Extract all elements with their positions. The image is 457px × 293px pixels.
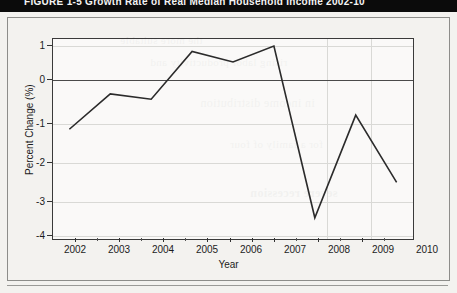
ylabel-0: 0 [21, 74, 45, 85]
income-growth-line [53, 39, 413, 239]
xlabel-2004: 2004 [143, 244, 183, 255]
ytick--2 [47, 162, 52, 163]
xlabel-2008: 2008 [319, 244, 359, 255]
ytick--4 [47, 235, 52, 236]
xtick-minor-6 [384, 238, 385, 241]
xtick-minor-5 [340, 238, 341, 241]
xtick-2006 [230, 238, 231, 242]
ylabel--3: -3 [21, 196, 45, 207]
xtick-2008 [274, 238, 275, 242]
ytick-1 [47, 45, 52, 46]
ytick--3 [47, 201, 52, 202]
figure-title: FIGURE 1-5 Growth Rate of Real Median Ho… [24, 0, 365, 7]
y-axis-title: Percent Change (%) [24, 84, 35, 175]
xlabel-2003: 2003 [99, 244, 139, 255]
xtick-minor-2 [141, 238, 142, 241]
ytick-0 [47, 79, 52, 80]
xlabel-2009: 2009 [363, 244, 403, 255]
scanned-page: the more suitable rising labor productiv… [0, 0, 457, 293]
xlabel-2006: 2006 [231, 244, 271, 255]
ytick--1 [47, 123, 52, 124]
xtick-minor-3 [185, 238, 186, 241]
xlabel-2010: 2010 [407, 244, 447, 255]
xtick-2004 [163, 238, 164, 242]
xtick-2010 [362, 238, 363, 242]
xtick-2009 [318, 238, 319, 242]
xlabel-2005: 2005 [187, 244, 227, 255]
xtick-minor-1 [97, 238, 98, 241]
page-bottom-rule [7, 285, 448, 286]
chart-plot-area [52, 38, 414, 240]
xtick-2005 [207, 238, 208, 242]
ylabel-1: 1 [21, 40, 45, 51]
xtick-2007 [252, 238, 253, 242]
xlabel-2007: 2007 [275, 244, 315, 255]
figure-title-banner: FIGURE 1-5 Growth Rate of Real Median Ho… [0, 0, 457, 12]
xtick-2003 [119, 238, 120, 242]
xtick-2002 [75, 238, 76, 242]
ylabel--4: -4 [21, 230, 45, 241]
x-axis-title: Year [0, 259, 457, 270]
xtick-minor-4 [296, 238, 297, 241]
xlabel-2002: 2002 [55, 244, 95, 255]
